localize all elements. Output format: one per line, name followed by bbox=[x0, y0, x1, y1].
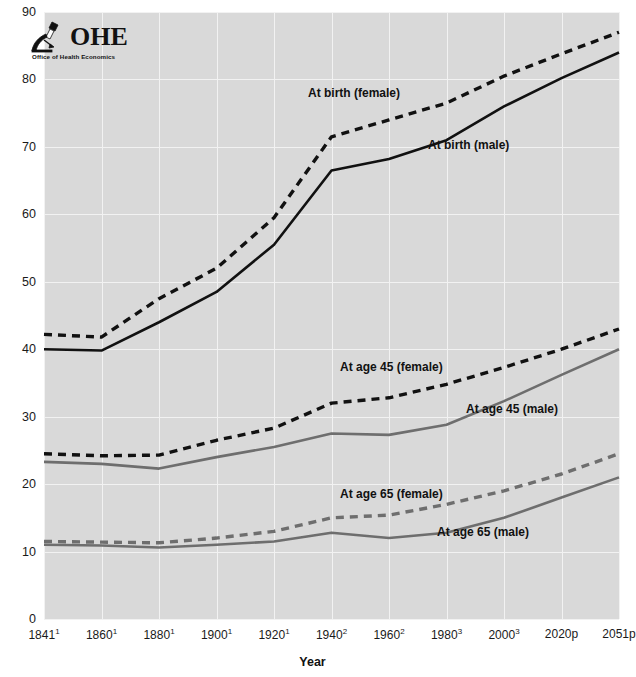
series-annotation: At age 45 (male) bbox=[466, 402, 558, 416]
gridline-horizontal bbox=[44, 484, 619, 485]
gridline-vertical bbox=[159, 12, 160, 619]
series-annotation: At age 45 (female) bbox=[340, 360, 443, 374]
logo-subtitle: Office of Health Economics bbox=[32, 53, 115, 60]
gridline-horizontal bbox=[44, 79, 619, 80]
y-axis-tick-label: 60 bbox=[2, 207, 36, 221]
series-annotation: At birth (male) bbox=[428, 138, 509, 152]
gridline-horizontal bbox=[44, 282, 619, 283]
y-axis-tick-label: 70 bbox=[2, 140, 36, 154]
x-axis-tick-label: 2051p bbox=[602, 627, 635, 641]
y-axis-tick-label: 30 bbox=[2, 410, 36, 424]
x-axis-tick-label: 18411 bbox=[28, 627, 59, 642]
x-axis-tick-label: 20003 bbox=[488, 627, 519, 642]
x-axis-tick-label: 19201 bbox=[258, 627, 289, 642]
x-axis-tick-label: 18601 bbox=[86, 627, 117, 642]
gridline-vertical bbox=[389, 12, 390, 619]
x-axis-tick-label: 19602 bbox=[373, 627, 404, 642]
gridline-vertical bbox=[274, 12, 275, 619]
logo-wordmark: OHE bbox=[70, 22, 128, 52]
y-axis-tick-label: 90 bbox=[2, 5, 36, 19]
y-axis-tick-label: 0 bbox=[2, 612, 36, 626]
gridline-vertical bbox=[217, 12, 218, 619]
gridline-horizontal bbox=[44, 214, 619, 215]
ohe-logo: OHE Office of Health Economics bbox=[30, 20, 130, 66]
series-annotation: At age 65 (female) bbox=[340, 487, 443, 501]
microscope-icon bbox=[30, 20, 72, 54]
series-annotation: At birth (female) bbox=[308, 86, 400, 100]
x-axis-title: Year bbox=[0, 655, 625, 669]
gridline-vertical bbox=[619, 12, 620, 619]
gridline-horizontal bbox=[44, 417, 619, 418]
x-axis-tick-label: 19803 bbox=[431, 627, 462, 642]
x-axis-tick-label: 2020p bbox=[545, 627, 578, 641]
gridline-vertical bbox=[44, 12, 45, 619]
gridline-horizontal bbox=[44, 619, 619, 620]
y-axis-tick-label: 10 bbox=[2, 545, 36, 559]
x-axis-tick-label: 18801 bbox=[143, 627, 174, 642]
y-axis-tick-label: 50 bbox=[2, 275, 36, 289]
series-annotation: At age 65 (male) bbox=[437, 525, 529, 539]
gridline-vertical bbox=[562, 12, 563, 619]
x-axis-tick-label: 19001 bbox=[201, 627, 232, 642]
gridline-vertical bbox=[102, 12, 103, 619]
x-axis-tick-label: 19402 bbox=[316, 627, 347, 642]
gridline-horizontal bbox=[44, 349, 619, 350]
y-axis-tick-label: 20 bbox=[2, 477, 36, 491]
gridline-horizontal bbox=[44, 552, 619, 553]
y-axis-tick-label: 80 bbox=[2, 72, 36, 86]
gridline-vertical bbox=[332, 12, 333, 619]
plot-area bbox=[44, 12, 619, 619]
gridline-horizontal bbox=[44, 12, 619, 13]
gridline-horizontal bbox=[44, 147, 619, 148]
y-axis-tick-label: 40 bbox=[2, 342, 36, 356]
